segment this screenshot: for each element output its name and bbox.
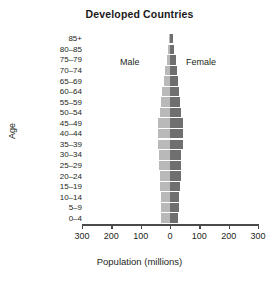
bar-female xyxy=(170,87,179,96)
age-tick-label: 60–64 xyxy=(36,88,82,96)
bar-male xyxy=(159,161,170,170)
chart-title: Developed Countries xyxy=(0,8,279,20)
bar-female xyxy=(170,203,179,212)
x-axis-tick xyxy=(199,224,200,229)
bar-female xyxy=(170,150,181,159)
pyramid-row xyxy=(82,76,258,85)
bar-male xyxy=(161,97,170,106)
age-tick-label: 45–49 xyxy=(36,120,82,128)
bar-female xyxy=(170,171,181,180)
x-axis-title: Population (millions) xyxy=(0,256,279,267)
bar-female xyxy=(170,213,178,222)
bar-female xyxy=(170,140,183,149)
bar-male xyxy=(160,171,170,180)
bar-female xyxy=(170,192,179,201)
bar-male xyxy=(162,87,170,96)
bar-male xyxy=(160,108,170,117)
pyramid-row xyxy=(82,55,258,64)
x-axis-tick xyxy=(258,224,259,229)
pyramid-row xyxy=(82,150,258,159)
age-tick-label: 75–79 xyxy=(36,56,82,64)
pyramid-row xyxy=(82,161,258,170)
age-tick-label: 10–14 xyxy=(36,194,82,202)
bar-male xyxy=(161,213,170,222)
plot-area xyxy=(82,34,258,224)
bar-male xyxy=(158,118,170,127)
x-axis-tick xyxy=(170,224,171,229)
series-label-female: Female xyxy=(186,57,216,67)
x-axis-tick xyxy=(111,224,112,229)
age-tick-label: 80–85 xyxy=(36,46,82,54)
population-pyramid-figure: Developed Countries Age 85+80–8575–7970–… xyxy=(0,0,279,283)
pyramid-row xyxy=(82,171,258,180)
bar-female xyxy=(170,45,174,54)
bar-female xyxy=(170,129,183,138)
x-axis-tick xyxy=(229,224,230,229)
bar-male xyxy=(161,192,170,201)
pyramid-row xyxy=(82,108,258,117)
bar-female xyxy=(170,97,180,106)
bar-male xyxy=(158,129,170,138)
age-tick-label: 0–4 xyxy=(36,215,82,223)
pyramid-row xyxy=(82,192,258,201)
pyramid-row xyxy=(82,87,258,96)
age-tick-label: 25–29 xyxy=(36,162,82,170)
age-tick-label: 35–39 xyxy=(36,141,82,149)
age-tick-label: 15–19 xyxy=(36,183,82,191)
bar-male xyxy=(158,140,170,149)
series-label-male: Male xyxy=(120,57,140,67)
age-tick-label: 40–44 xyxy=(36,130,82,138)
age-tick-label: 5–9 xyxy=(36,204,82,212)
bar-male xyxy=(160,182,170,191)
bar-male xyxy=(161,203,170,212)
pyramid-row xyxy=(82,66,258,75)
bar-female xyxy=(170,108,181,117)
age-tick-label: 65–69 xyxy=(36,78,82,86)
pyramid-row xyxy=(82,118,258,127)
age-tick-label: 55–59 xyxy=(36,99,82,107)
pyramid-row xyxy=(82,34,258,43)
pyramid-row xyxy=(82,203,258,212)
age-tick-label: 30–34 xyxy=(36,151,82,159)
age-tick-label: 70–74 xyxy=(36,67,82,75)
bar-female xyxy=(170,118,183,127)
pyramid-row xyxy=(82,129,258,138)
pyramid-row xyxy=(82,45,258,54)
pyramid-row xyxy=(82,97,258,106)
bar-female xyxy=(170,76,178,85)
bar-female xyxy=(170,66,177,75)
x-axis-tick xyxy=(82,224,83,229)
age-tick-label: 50–54 xyxy=(36,109,82,117)
bar-female xyxy=(170,34,173,43)
pyramid-row xyxy=(82,213,258,222)
age-tick-label-group: 85+80–8575–7970–7465–6960–6455–5950–5445… xyxy=(36,34,82,224)
pyramid-row xyxy=(82,182,258,191)
bar-female xyxy=(170,55,176,64)
age-tick-label: 20–24 xyxy=(36,173,82,181)
x-axis-tick xyxy=(141,224,142,229)
bar-male xyxy=(159,150,170,159)
age-tick-label: 85+ xyxy=(36,35,82,43)
bar-female xyxy=(170,161,181,170)
x-axis-tick-label: 300 xyxy=(238,231,278,241)
pyramid-row xyxy=(82,140,258,149)
bar-female xyxy=(170,182,180,191)
